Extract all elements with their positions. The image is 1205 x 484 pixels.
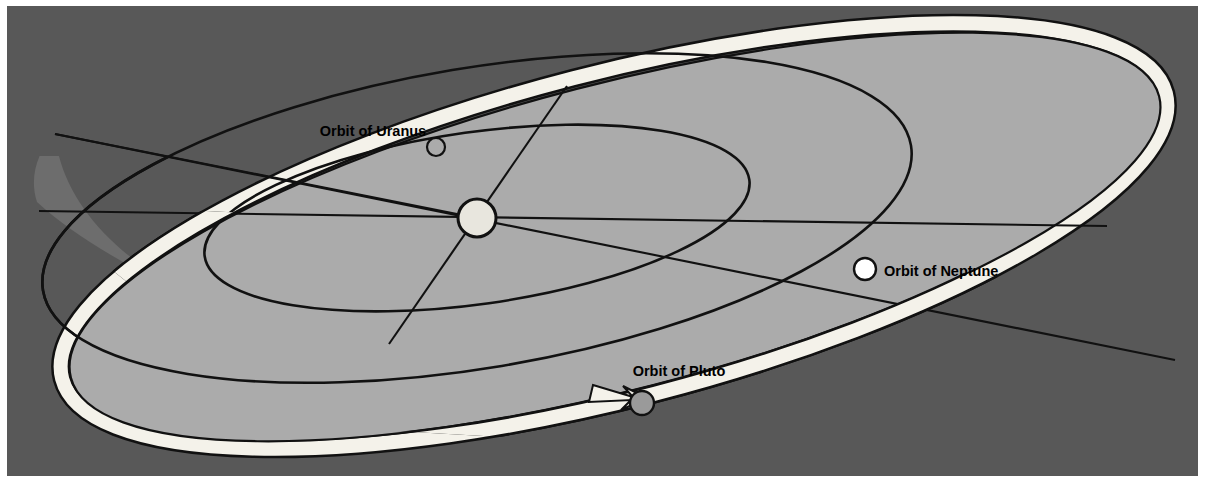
label-orbit-of-neptune: Orbit of Neptune <box>884 263 998 279</box>
pluto-body <box>630 391 654 415</box>
sun-body <box>458 199 496 237</box>
orbit-diagram-svg: Orbit of Uranus Orbit of Neptune Orbit o… <box>7 6 1198 476</box>
neptune-body <box>854 258 876 280</box>
uranus-body <box>427 138 445 156</box>
orbit-diagram-figure: Orbit of Uranus Orbit of Neptune Orbit o… <box>7 6 1198 476</box>
diagram-page: Orbit of Uranus Orbit of Neptune Orbit o… <box>0 0 1205 484</box>
label-orbit-of-uranus: Orbit of Uranus <box>320 123 426 139</box>
label-orbit-of-pluto: Orbit of Pluto <box>633 363 726 379</box>
